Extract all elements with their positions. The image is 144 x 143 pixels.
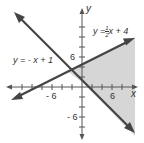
line1-equation-label: y = - x + 1 [13,56,53,65]
line2-equation-label: y =12x + 4 [93,25,128,38]
x-tick-label-6: 6 [110,92,115,101]
y-axis-label: y [86,4,91,14]
arrowhead-icon [11,92,23,100]
line2-prefix: y = [93,26,105,36]
y-tick-label-6: 6 [70,53,75,62]
x-tick-label-neg6: - 6 [46,92,57,101]
line2-suffix: x + 4 [109,26,129,36]
x-axis-label: x [131,89,136,99]
y-tick-label-neg6: - 6 [67,113,78,122]
